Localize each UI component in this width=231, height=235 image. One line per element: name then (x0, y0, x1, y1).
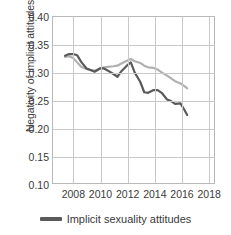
gridline-vertical (128, 17, 129, 183)
gridline-horizontal (53, 101, 214, 102)
y-axis-tick-label: 0.35 (29, 39, 49, 51)
chart-figure: Negativity of implicit attitudes 0.100.1… (0, 0, 231, 235)
y-axis-tick-label: 0.10 (29, 179, 49, 191)
gridline-horizontal (53, 157, 214, 158)
gridline-horizontal (53, 73, 214, 74)
x-axis-tick-label: 2012 (116, 188, 139, 200)
gridline-vertical (73, 17, 74, 183)
gridline-vertical (209, 17, 210, 183)
legend-item: Implicit sexuality attitudes (40, 213, 192, 225)
gridline-vertical (182, 17, 183, 183)
x-axis-tick-label: 2010 (89, 188, 112, 200)
x-axis-tick-label: 2018 (198, 188, 221, 200)
y-axis-tick-label: 0.20 (29, 123, 49, 135)
gridline-horizontal (53, 45, 214, 46)
gridline-vertical (155, 17, 156, 183)
gridline-horizontal (53, 129, 214, 130)
legend-label: Implicit sexuality attitudes (67, 213, 192, 225)
chart-legend: Implicit sexuality attitudes (0, 213, 231, 225)
x-axis-tick-label: 2014 (143, 188, 166, 200)
gridline-vertical (101, 17, 102, 183)
x-axis-tick-label: 2008 (62, 188, 85, 200)
y-axis-tick-label: 0.30 (29, 67, 49, 79)
plot-area: 0.100.150.200.250.300.350.40200820102012… (52, 16, 215, 184)
x-axis-tick-label: 2016 (170, 188, 193, 200)
data-line (65, 54, 187, 115)
y-axis-tick-label: 0.15 (29, 151, 49, 163)
y-axis-tick-label: 0.40 (29, 11, 49, 23)
series-layer (53, 17, 214, 183)
y-axis-tick-label: 0.25 (29, 95, 49, 107)
legend-swatch-icon (40, 217, 62, 221)
